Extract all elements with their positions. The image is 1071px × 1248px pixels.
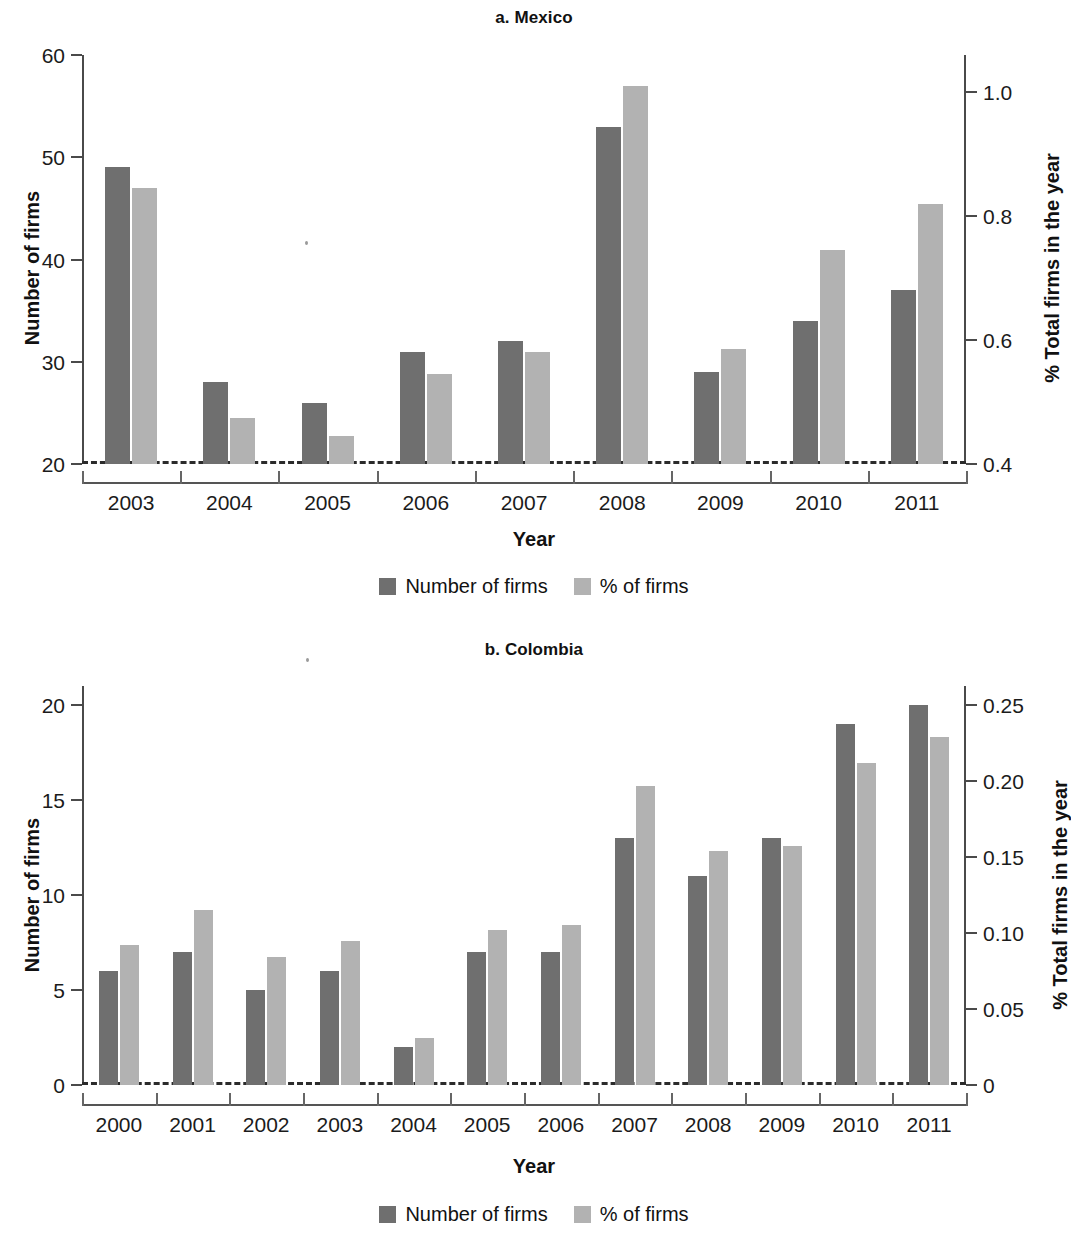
baseline-dashed-colombia — [82, 1082, 966, 1085]
y-tick-label-right: 0.6 — [983, 330, 1012, 351]
bar-number-of-firms — [400, 352, 425, 464]
y-tick-left — [71, 894, 82, 896]
x-axis-separator — [745, 1093, 747, 1106]
bar-percent-of-firms — [525, 352, 550, 464]
y-tick-label-right: 0.8 — [983, 206, 1012, 227]
bar-percent-of-firms — [488, 930, 507, 1085]
plot-area-mexico: 20304050600.40.60.81.0 — [82, 55, 966, 464]
y-tick-label-left: 30 — [42, 351, 65, 372]
y-tick-label-left: 60 — [42, 45, 65, 66]
y-tick-label-right: 0.20 — [983, 771, 1024, 792]
panel-title-colombia: b. Colombia — [0, 620, 1068, 660]
legend-swatch-light-icon — [574, 1206, 591, 1223]
bar-percent-of-firms — [636, 786, 655, 1085]
x-axis-separator — [475, 471, 477, 484]
y-tick-right — [966, 780, 977, 782]
y-tick-label-left: 20 — [42, 454, 65, 475]
y-tick-right — [966, 91, 977, 93]
y-tick-right — [966, 856, 977, 858]
y-tick-left — [71, 704, 82, 706]
x-axis-rule-mexico — [82, 482, 966, 484]
legend-item-number-of-firms: Number of firms — [379, 576, 547, 596]
bar-number-of-firms — [105, 167, 130, 464]
x-tick-label: 2003 — [316, 1114, 363, 1135]
bar-number-of-firms — [596, 127, 621, 464]
left-axis-line-colombia — [82, 686, 84, 1085]
legend-label-number-of-firms: Number of firms — [405, 1204, 547, 1224]
legend-label-number-of-firms: Number of firms — [405, 576, 547, 596]
x-axis-separator — [377, 471, 379, 484]
y-tick-label-left: 5 — [53, 980, 65, 1001]
legend-mexico: Number of firms % of firms — [0, 576, 1068, 596]
y-tick-label-left: 15 — [42, 790, 65, 811]
bar-percent-of-firms — [721, 349, 746, 464]
y-tick-label-right: 0.05 — [983, 999, 1024, 1020]
right-axis-line-mexico — [964, 55, 966, 464]
bar-percent-of-firms — [415, 1038, 434, 1085]
bar-number-of-firms — [173, 952, 192, 1085]
y-tick-left — [71, 989, 82, 991]
chart-panel-colombia: b. Colombia Number of firms % Total firm… — [0, 620, 1068, 1248]
y-tick-right — [966, 1008, 977, 1010]
y-axis-title-left-colombia: Number of firms — [22, 815, 42, 975]
x-axis-separator — [819, 1093, 821, 1106]
x-tick-label: 2010 — [832, 1114, 879, 1135]
bar-percent-of-firms — [623, 86, 648, 464]
bar-percent-of-firms — [783, 846, 802, 1085]
x-tick-label: 2007 — [611, 1114, 658, 1135]
bar-percent-of-firms — [918, 204, 943, 464]
x-axis-separator — [450, 1093, 452, 1106]
x-tick-label: 2002 — [243, 1114, 290, 1135]
x-axis-separator — [229, 1093, 231, 1106]
bar-percent-of-firms — [341, 941, 360, 1085]
x-tick-label: 2006 — [402, 492, 449, 513]
bar-number-of-firms — [203, 382, 228, 464]
bar-number-of-firms — [836, 724, 855, 1085]
bar-number-of-firms — [320, 971, 339, 1085]
y-tick-label-left: 20 — [42, 695, 65, 716]
x-axis-separator — [180, 471, 182, 484]
y-tick-right — [966, 932, 977, 934]
x-axis-separator — [868, 471, 870, 484]
x-tick-label: 2005 — [304, 492, 351, 513]
x-axis-separator — [598, 1093, 600, 1106]
y-tick-label-right: 0.4 — [983, 454, 1012, 475]
x-axis-separator — [278, 471, 280, 484]
left-axis-line-mexico — [82, 55, 84, 464]
bar-percent-of-firms — [820, 250, 845, 464]
legend-item-percent-of-firms: % of firms — [574, 1204, 689, 1224]
y-tick-left — [71, 156, 82, 158]
y-tick-label-left: 40 — [42, 249, 65, 270]
bar-number-of-firms — [541, 952, 560, 1085]
legend-swatch-dark-icon — [379, 578, 396, 595]
y-tick-label-right: 0.25 — [983, 695, 1024, 716]
y-tick-label-left: 10 — [42, 885, 65, 906]
y-axis-title-left-mexico: Number of firms — [22, 188, 42, 348]
y-tick-label-right: 0 — [983, 1075, 995, 1096]
y-tick-label-right: 0.10 — [983, 923, 1024, 944]
y-tick-left — [71, 361, 82, 363]
x-axis-separator — [892, 1093, 894, 1106]
y-tick-label-left: 50 — [42, 147, 65, 168]
x-axis-separator — [573, 471, 575, 484]
bar-number-of-firms — [394, 1047, 413, 1085]
y-tick-left — [71, 799, 82, 801]
bar-number-of-firms — [99, 971, 118, 1085]
x-tick-label: 2004 — [390, 1114, 437, 1135]
x-axis-separator — [377, 1093, 379, 1106]
x-axis-separator — [524, 1093, 526, 1106]
y-tick-left — [71, 54, 82, 56]
x-axis-separator — [82, 471, 84, 484]
x-tick-label: 2005 — [464, 1114, 511, 1135]
legend-colombia: Number of firms % of firms — [0, 1204, 1068, 1224]
bar-percent-of-firms — [857, 763, 876, 1085]
x-axis-separator — [303, 1093, 305, 1106]
x-axis-separator — [966, 471, 968, 484]
x-axis-separator — [82, 1093, 84, 1106]
y-tick-right — [966, 1084, 977, 1086]
bar-percent-of-firms — [562, 925, 581, 1085]
y-tick-label-left: 0 — [53, 1075, 65, 1096]
y-tick-right — [966, 704, 977, 706]
x-tick-label: 2006 — [537, 1114, 584, 1135]
x-tick-label: 2004 — [206, 492, 253, 513]
